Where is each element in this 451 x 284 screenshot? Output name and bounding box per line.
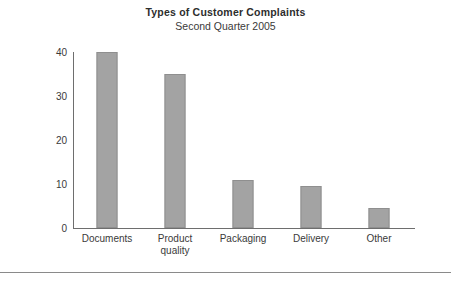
title-block: Types of Customer Complaints Second Quar… bbox=[0, 6, 451, 33]
x-axis-line bbox=[73, 228, 415, 229]
bar-group: Product quality bbox=[141, 52, 209, 228]
bar[interactable] bbox=[233, 180, 254, 228]
plot-area: 010203040 DocumentsProduct qualityPackag… bbox=[73, 52, 415, 228]
x-axis-category-label: Packaging bbox=[220, 233, 267, 245]
bar-group: Delivery bbox=[277, 52, 345, 228]
chart-title: Types of Customer Complaints bbox=[0, 6, 451, 19]
bottom-divider bbox=[0, 272, 451, 273]
y-axis-tick-label: 0 bbox=[61, 223, 67, 234]
bar[interactable] bbox=[97, 52, 118, 228]
bar[interactable] bbox=[369, 208, 390, 228]
y-axis-tick-label: 10 bbox=[56, 179, 67, 190]
x-axis-category-label: Delivery bbox=[293, 233, 329, 245]
y-axis-tick-label: 20 bbox=[56, 135, 67, 146]
y-axis-tick-label: 30 bbox=[56, 91, 67, 102]
y-axis-tick-label: 40 bbox=[56, 47, 67, 58]
bar[interactable] bbox=[165, 74, 186, 228]
bar[interactable] bbox=[301, 186, 322, 228]
bar-group: Other bbox=[345, 52, 413, 228]
x-axis-category-label: Product quality bbox=[158, 233, 192, 257]
chart-figure: Types of Customer Complaints Second Quar… bbox=[0, 0, 451, 284]
chart-subtitle: Second Quarter 2005 bbox=[0, 19, 451, 33]
x-axis-category-label: Other bbox=[366, 233, 391, 245]
bar-group: Documents bbox=[73, 52, 141, 228]
x-axis-category-label: Documents bbox=[82, 233, 133, 245]
bar-group: Packaging bbox=[209, 52, 277, 228]
